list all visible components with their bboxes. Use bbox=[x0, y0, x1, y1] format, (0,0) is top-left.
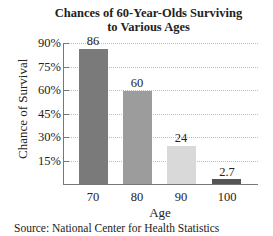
chart-title-line-1: Chances of 60-Year-Olds Surviving bbox=[12, 6, 273, 20]
chart-title-line-2: to Various Ages bbox=[12, 20, 273, 34]
y-tick-15: 15% bbox=[28, 155, 61, 167]
bar-90 bbox=[167, 146, 196, 184]
y-tick-90: 90% bbox=[28, 37, 61, 49]
value-label-80: 60 bbox=[117, 77, 157, 89]
bar-80 bbox=[123, 91, 152, 184]
x-tick-80: 80 bbox=[117, 190, 157, 205]
x-tick-90: 90 bbox=[161, 190, 201, 205]
bar-70 bbox=[79, 49, 108, 184]
x-tick-70: 70 bbox=[73, 190, 113, 205]
source-note: Source: National Center for Health Stati… bbox=[14, 222, 219, 234]
value-label-100: 2.7 bbox=[207, 166, 247, 178]
value-label-70: 86 bbox=[73, 35, 113, 47]
y-tick-60: 60% bbox=[28, 84, 61, 96]
y-tick-30: 30% bbox=[28, 131, 61, 143]
x-axis bbox=[63, 184, 258, 185]
y-tick-45: 45% bbox=[28, 108, 61, 120]
value-label-90: 24 bbox=[161, 132, 201, 144]
y-axis bbox=[63, 43, 64, 185]
x-axis-label: Age bbox=[140, 205, 180, 221]
y-tick-75: 75% bbox=[28, 61, 61, 73]
x-tick-100: 100 bbox=[207, 190, 247, 205]
